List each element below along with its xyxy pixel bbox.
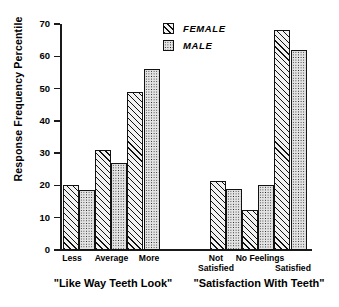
y-tick-label-30: 30 [20, 147, 50, 158]
legend-item-male: MALE [163, 37, 226, 54]
bar-not-satisfied-female [210, 181, 226, 250]
chart-figure: Response Frequency Percentile 7060504030… [0, 0, 339, 307]
y-tick-label-70: 70 [20, 18, 50, 29]
y-tick-label-0: 0 [20, 244, 50, 255]
legend-label-female: FEMALE [183, 23, 226, 34]
bar-no-feelings-female [242, 210, 258, 250]
legend-label-male: MALE [183, 40, 212, 51]
bar-satisfied-male [291, 50, 307, 250]
y-axis-title: Response Frequency Percentile [12, 4, 24, 194]
bar-satisfied-female [274, 30, 290, 250]
y-tick-label-50: 50 [20, 83, 50, 94]
bar-not-satisfied-male [226, 189, 242, 250]
x-label-satisfied: Satisfied [265, 263, 321, 273]
x-label-more: More [128, 253, 170, 263]
x-label-not-satisfied-line2: Satisfied [198, 263, 234, 273]
y-tick-label-60: 60 [20, 50, 50, 61]
legend-item-female: FEMALE [163, 20, 226, 37]
x-label-not-satisfied-line1: Not [209, 253, 223, 263]
legend-swatch-male-icon [163, 40, 174, 51]
y-tick-label-20: 20 [20, 179, 50, 190]
x-label-not-satisfied: Not Satisfied [198, 253, 234, 273]
legend-swatch-female-icon [163, 23, 174, 34]
y-tick-label-10: 10 [20, 212, 50, 223]
legend: FEMALE MALE [163, 20, 226, 54]
y-tick-label-40: 40 [20, 115, 50, 126]
panel-caption-right: "Satisfaction With Teeth" [178, 277, 339, 289]
bar-group-satisfaction-with-teeth [60, 24, 312, 250]
plot-area [60, 24, 312, 250]
bar-no-feelings-male [258, 185, 274, 250]
x-label-no-feelings: No Feelings [232, 253, 288, 263]
panel-caption-left: "Like Way Teeth Look" [38, 277, 188, 289]
